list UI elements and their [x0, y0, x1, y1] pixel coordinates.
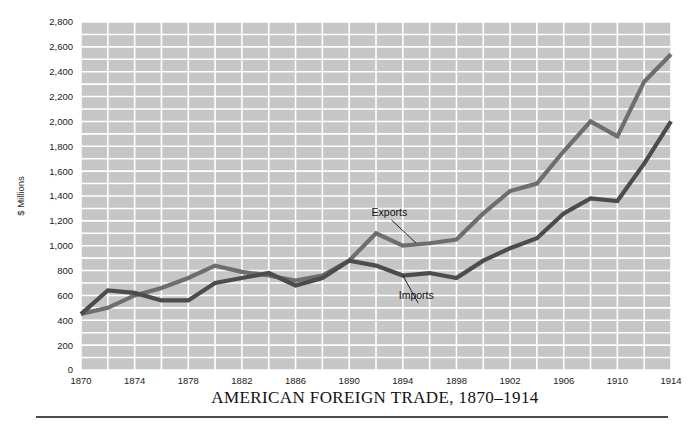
- y-axis-title: $ Millions: [15, 176, 26, 216]
- y-tick-label: 1,400: [49, 190, 73, 201]
- series-label-imports: Imports: [399, 289, 434, 301]
- y-tick-label: 2,600: [49, 41, 73, 52]
- x-tick-label: 1894: [392, 375, 413, 386]
- x-tick-label: 1882: [231, 375, 252, 386]
- series-label-exports: Exports: [372, 206, 408, 218]
- x-tick-label: 1890: [339, 375, 360, 386]
- y-tick-label: 2,400: [49, 66, 73, 77]
- y-tick-label: 2,200: [49, 91, 73, 102]
- chart-figure: 02004006008001,0001,2001,4001,6001,8002,…: [0, 0, 695, 430]
- y-tick-label: 200: [57, 340, 73, 351]
- x-tick-label: 1878: [178, 375, 199, 386]
- american-foreign-trade-line-chart: 02004006008001,0001,2001,4001,6001,8002,…: [0, 0, 695, 430]
- x-tick-label: 1874: [124, 375, 145, 386]
- x-tick-label: 1870: [70, 375, 91, 386]
- y-tick-label: 600: [57, 290, 73, 301]
- y-tick-label: 2,800: [49, 16, 73, 27]
- y-tick-label: 1,800: [49, 141, 73, 152]
- y-tick-label: 1,200: [49, 215, 73, 226]
- x-tick-label: 1910: [607, 375, 628, 386]
- x-tick-label: 1906: [553, 375, 574, 386]
- chart-title: AMERICAN FOREIGN TRADE, 1870–1914: [211, 388, 538, 407]
- y-tick-label: 800: [57, 265, 73, 276]
- y-tick-label: 2,000: [49, 116, 73, 127]
- y-tick-label: 1,600: [49, 166, 73, 177]
- x-tick-label: 1902: [500, 375, 521, 386]
- y-tick-label: 400: [57, 315, 73, 326]
- x-tick-label: 1898: [446, 375, 467, 386]
- x-tick-label: 1914: [660, 375, 681, 386]
- x-tick-label: 1886: [285, 375, 306, 386]
- y-tick-label: 0: [68, 364, 73, 375]
- y-tick-label: 1,000: [49, 240, 73, 251]
